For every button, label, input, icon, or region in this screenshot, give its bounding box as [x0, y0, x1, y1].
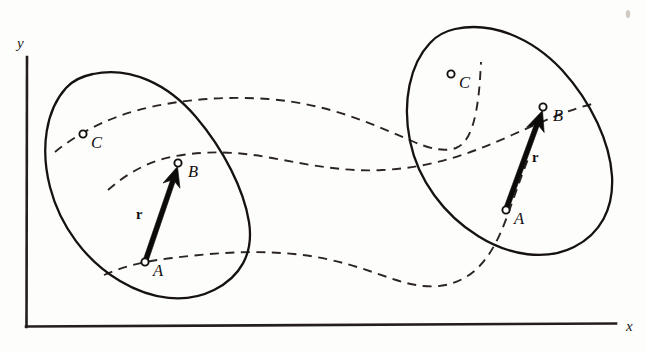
point-marker-C-current[interactable]: [447, 70, 454, 77]
point-label-A-reference: A: [152, 261, 164, 280]
paper-speck: [626, 10, 630, 18]
point-label-B-current: B: [553, 106, 563, 125]
point-marker-B-current[interactable]: [539, 103, 546, 110]
x-axis-label: x: [625, 318, 633, 334]
label-group: y x A B C A B C r r: [15, 35, 633, 334]
point-label-A-current: A: [513, 209, 525, 228]
trajectory-group: [55, 62, 592, 286]
trajectory-path-C: [55, 62, 481, 152]
current-body-outline: [407, 27, 612, 255]
reference-position-vector: [143, 167, 180, 262]
current-configuration-body: [407, 27, 612, 255]
point-label-C-current: C: [459, 73, 471, 92]
figure-canvas: y x A B C A B C r r: [0, 0, 646, 352]
vector-r-arrow-left: [143, 167, 180, 262]
trajectory-path-A: [104, 154, 530, 286]
point-label-B-reference: B: [188, 162, 198, 181]
diagram-svg: y x A B C A B C r r: [0, 0, 646, 352]
y-axis-label: y: [15, 35, 24, 51]
x-axis-line: [26, 324, 616, 327]
point-marker-C-reference[interactable]: [79, 130, 86, 137]
vector-label-r-current: r: [532, 149, 539, 165]
point-marker-B-reference[interactable]: [174, 159, 181, 166]
vector-label-r-reference: r: [136, 206, 143, 222]
point-marker-A-reference[interactable]: [141, 258, 148, 265]
y-axis-line: [27, 57, 28, 327]
axes-group: [26, 57, 616, 327]
point-label-C-reference: C: [91, 133, 103, 152]
point-marker-A-current[interactable]: [502, 206, 509, 213]
